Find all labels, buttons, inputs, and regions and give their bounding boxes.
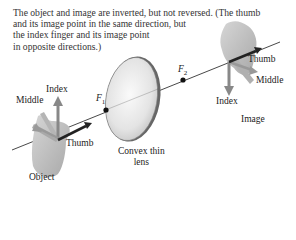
f2-label: F2: [178, 64, 187, 77]
f1-subscript: 1: [102, 98, 106, 106]
image-thumb-label: Thumb: [248, 54, 275, 64]
image-middle-label: Middle: [256, 75, 283, 85]
object-thumb-label: Thumb: [66, 138, 93, 148]
focal-point-f2: [180, 77, 185, 82]
object-caption: Object: [29, 172, 54, 182]
object-hand-icon: [32, 96, 92, 177]
lens-label: Convex thin lens: [118, 146, 165, 168]
object-middle-label: Middle: [16, 95, 43, 105]
lens-label-line-1: Convex thin: [118, 146, 165, 157]
image-index-label: Index: [216, 96, 238, 106]
image-caption: Image: [241, 114, 265, 124]
object-index-label: Index: [46, 84, 68, 94]
f1-label: F1: [96, 93, 105, 106]
focal-point-f1: [103, 107, 108, 112]
lens-label-line-2: lens: [118, 157, 165, 168]
f2-subscript: 2: [184, 69, 188, 77]
